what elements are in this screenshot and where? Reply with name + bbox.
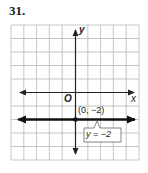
origin-label: O xyxy=(64,93,72,104)
line-label: y = −2 xyxy=(86,129,111,139)
y-axis-label: y xyxy=(79,24,85,35)
point-label: (0, −2) xyxy=(78,105,104,115)
coordinate-graph xyxy=(0,0,148,173)
point-0-neg2 xyxy=(73,117,78,122)
x-axis-label: x xyxy=(131,93,136,104)
